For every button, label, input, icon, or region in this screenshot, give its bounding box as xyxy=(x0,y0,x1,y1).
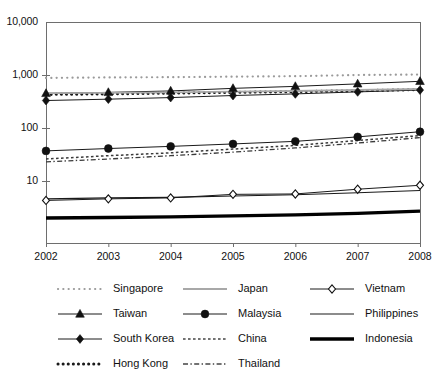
data-point-diamond xyxy=(416,86,423,95)
legend-swatch-icon xyxy=(56,281,104,297)
data-point-circle xyxy=(201,310,209,318)
legend-item-malaysia[interactable]: Malaysia xyxy=(181,301,281,326)
x-axis-label-6: 2008 xyxy=(397,250,432,262)
legend-item-vietnam[interactable]: Vietnam xyxy=(308,276,418,301)
legend-label: Vietnam xyxy=(365,283,405,294)
legend-item-hong-kong[interactable]: Hong Kong xyxy=(56,351,174,376)
chart-legend: SingaporeTaiwanSouth KoreaHong KongJapan… xyxy=(0,276,432,380)
x-axis-label-5: 2007 xyxy=(335,250,381,262)
data-point-circle xyxy=(229,140,237,148)
data-point-triangle xyxy=(229,84,238,92)
legend-label: Indonesia xyxy=(365,333,413,344)
x-axis-label-0: 2002 xyxy=(23,250,69,262)
data-point-triangle xyxy=(76,309,85,317)
data-point-open-diamond xyxy=(105,195,112,203)
data-point-circle xyxy=(42,147,50,155)
legend-label: Taiwan xyxy=(113,308,147,319)
legend-label: South Korea xyxy=(113,333,174,344)
legend-swatch-icon xyxy=(181,281,229,297)
data-point-triangle xyxy=(291,82,300,90)
series-line-indonesia xyxy=(46,211,420,218)
legend-swatch-icon xyxy=(181,356,229,372)
data-point-open-diamond xyxy=(230,190,237,198)
data-point-circle xyxy=(416,128,424,136)
legend-swatch-icon xyxy=(308,281,356,297)
legend-swatch-icon xyxy=(56,356,104,372)
data-point-circle xyxy=(104,145,112,153)
y-axis-label-2: 100 xyxy=(0,121,38,133)
legend-label: Malaysia xyxy=(238,308,281,319)
legend-label: Singapore xyxy=(113,283,163,294)
data-point-circle xyxy=(291,137,299,145)
legend-item-indonesia[interactable]: Indonesia xyxy=(308,326,418,351)
legend-swatch-icon xyxy=(308,306,356,322)
data-point-open-diamond xyxy=(292,190,299,198)
data-point-diamond xyxy=(42,96,49,105)
data-point-open-diamond xyxy=(354,185,361,193)
legend-item-taiwan[interactable]: Taiwan xyxy=(56,301,174,326)
legend-item-philippines[interactable]: Philippines xyxy=(308,301,418,326)
legend-swatch-icon xyxy=(181,331,229,347)
x-axis-label-1: 2003 xyxy=(85,250,131,262)
plot-frame xyxy=(47,23,421,244)
y-axis-label-3: 10 xyxy=(0,174,38,186)
data-point-open-diamond xyxy=(167,194,174,202)
data-point-triangle xyxy=(353,79,362,87)
x-axis-label-4: 2006 xyxy=(272,250,318,262)
data-point-circle xyxy=(167,142,175,150)
legend-column-2: JapanMalaysiaChinaThailand xyxy=(181,276,281,376)
x-axis-label-2: 2004 xyxy=(148,250,194,262)
legend-swatch-icon xyxy=(308,331,356,347)
legend-label: Japan xyxy=(238,283,268,294)
data-point-diamond xyxy=(105,95,112,104)
y-axis-label-1: 1,000 xyxy=(0,68,38,80)
data-point-triangle xyxy=(416,77,425,85)
data-point-circle xyxy=(354,133,362,141)
legend-item-china[interactable]: China xyxy=(181,326,281,351)
line-chart: 10,0001,00010010 20022003200420052006200… xyxy=(0,0,432,380)
legend-item-singapore[interactable]: Singapore xyxy=(56,276,174,301)
legend-column-1: SingaporeTaiwanSouth KoreaHong Kong xyxy=(56,276,174,376)
legend-label: China xyxy=(238,333,267,344)
legend-column-3: VietnamPhilippinesIndonesia xyxy=(308,276,418,351)
legend-item-thailand[interactable]: Thailand xyxy=(181,351,281,376)
legend-swatch-icon xyxy=(181,306,229,322)
legend-label: Philippines xyxy=(365,308,418,319)
legend-label: Hong Kong xyxy=(113,358,168,369)
legend-swatch-icon xyxy=(56,331,104,347)
x-axis-label-3: 2005 xyxy=(210,250,256,262)
data-point-open-diamond xyxy=(417,181,424,189)
legend-swatch-icon xyxy=(56,306,104,322)
data-point-open-diamond xyxy=(43,196,50,204)
data-point-diamond xyxy=(354,87,361,96)
data-point-diamond xyxy=(76,334,83,343)
legend-item-japan[interactable]: Japan xyxy=(181,276,281,301)
legend-item-south-korea[interactable]: South Korea xyxy=(56,326,174,351)
y-axis-label-0: 10,000 xyxy=(0,15,38,27)
data-point-open-diamond xyxy=(329,284,336,292)
legend-label: Thailand xyxy=(238,358,280,369)
series-line-singapore xyxy=(46,75,420,78)
